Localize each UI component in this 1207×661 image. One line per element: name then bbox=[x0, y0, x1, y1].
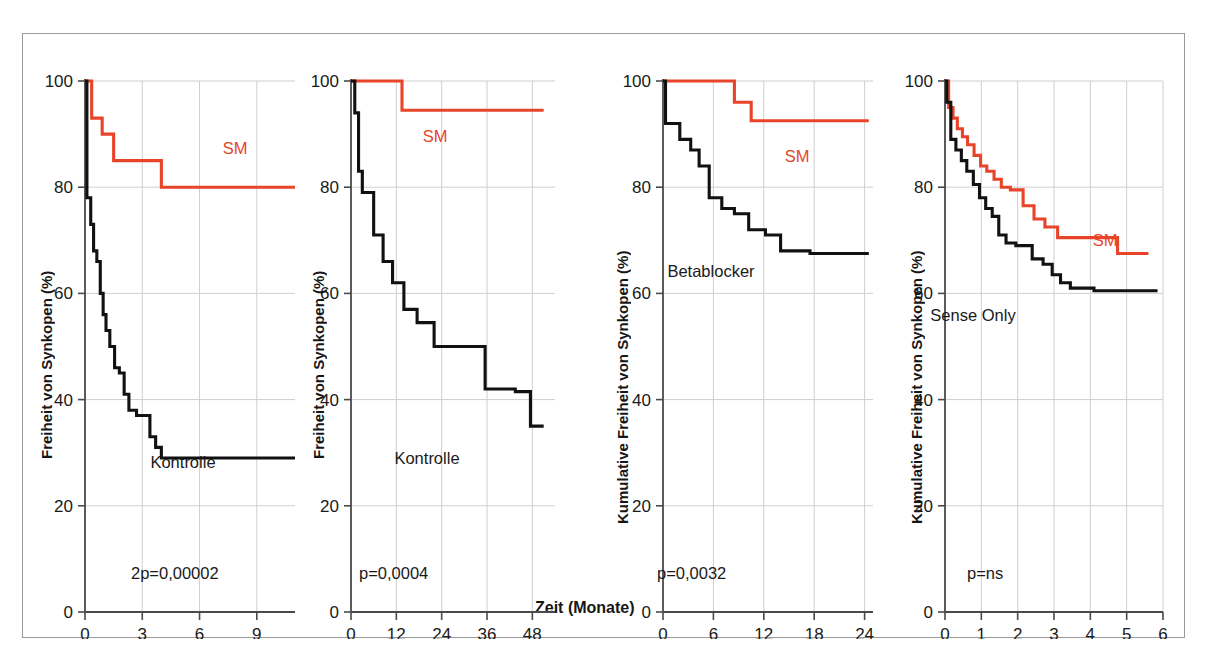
panel-2-y-axis-label: Freiheit von Synkopen (%) bbox=[311, 169, 326, 459]
svg-text:80: 80 bbox=[632, 178, 651, 197]
figure-frame: Zeit (Monate) Freiheit von Synkopen (%) … bbox=[22, 33, 1185, 638]
svg-text:100: 100 bbox=[45, 72, 73, 91]
svg-text:0: 0 bbox=[346, 625, 355, 639]
panel-4: Kumulative Freiheit von Synkopen (%) 020… bbox=[895, 34, 1186, 639]
svg-text:0: 0 bbox=[658, 625, 667, 639]
svg-text:Kontrolle: Kontrolle bbox=[394, 449, 459, 467]
svg-text:12: 12 bbox=[387, 625, 406, 639]
svg-text:20: 20 bbox=[320, 497, 339, 516]
svg-text:24: 24 bbox=[855, 625, 874, 639]
svg-text:3: 3 bbox=[1049, 625, 1058, 639]
svg-text:48: 48 bbox=[523, 625, 542, 639]
svg-text:40: 40 bbox=[632, 391, 651, 410]
svg-text:1: 1 bbox=[977, 625, 986, 639]
svg-text:p=ns: p=ns bbox=[967, 564, 1003, 582]
panel-1: Freiheit von Synkopen (%) 02040608010003… bbox=[23, 34, 313, 639]
svg-text:6: 6 bbox=[1158, 625, 1167, 639]
svg-text:6: 6 bbox=[195, 625, 204, 639]
svg-text:5: 5 bbox=[1122, 625, 1131, 639]
svg-text:24: 24 bbox=[432, 625, 451, 639]
panel-3: Kumulative Freiheit von Synkopen (%) 020… bbox=[601, 34, 901, 639]
svg-text:0: 0 bbox=[642, 603, 651, 622]
svg-text:0: 0 bbox=[924, 603, 933, 622]
svg-text:Kontrolle: Kontrolle bbox=[150, 453, 215, 471]
panel-1-plot: 0204060801000369SMKontrolle2p=0,00002 bbox=[23, 34, 313, 639]
svg-text:SM: SM bbox=[785, 147, 810, 165]
svg-text:3: 3 bbox=[138, 625, 147, 639]
svg-text:4: 4 bbox=[1086, 625, 1095, 639]
svg-text:40: 40 bbox=[54, 391, 73, 410]
svg-text:SM: SM bbox=[423, 127, 448, 145]
svg-text:0: 0 bbox=[64, 603, 73, 622]
svg-text:100: 100 bbox=[311, 72, 339, 91]
svg-text:60: 60 bbox=[632, 284, 651, 303]
svg-text:Sense Only: Sense Only bbox=[930, 306, 1016, 324]
svg-text:SM: SM bbox=[1093, 231, 1118, 249]
svg-text:2: 2 bbox=[1013, 625, 1022, 639]
svg-text:80: 80 bbox=[54, 178, 73, 197]
svg-text:0: 0 bbox=[940, 625, 949, 639]
svg-text:p=0,0004: p=0,0004 bbox=[359, 564, 428, 582]
svg-text:9: 9 bbox=[252, 625, 261, 639]
panel-3-plot: 02040608010006121824SMBetablockerp=0,003… bbox=[601, 34, 901, 639]
svg-text:100: 100 bbox=[623, 72, 651, 91]
svg-text:SM: SM bbox=[223, 139, 248, 157]
svg-text:18: 18 bbox=[805, 625, 824, 639]
panel-2: Freiheit von Synkopen (%) 02040608010001… bbox=[295, 34, 595, 639]
svg-text:100: 100 bbox=[905, 72, 933, 91]
panel-2-plot: 020406080100012243648SMKontrollep=0,0004 bbox=[295, 34, 595, 639]
panel-1-y-axis-label: Freiheit von Synkopen (%) bbox=[39, 169, 54, 459]
svg-text:p=0,0032: p=0,0032 bbox=[657, 564, 726, 582]
svg-text:12: 12 bbox=[754, 625, 773, 639]
svg-text:2p=0,00002: 2p=0,00002 bbox=[131, 564, 219, 582]
svg-text:36: 36 bbox=[478, 625, 497, 639]
panel-4-y-axis-label: Kumulative Freiheit von Synkopen (%) bbox=[909, 124, 924, 524]
svg-text:0: 0 bbox=[80, 625, 89, 639]
svg-text:20: 20 bbox=[54, 497, 73, 516]
svg-text:6: 6 bbox=[709, 625, 718, 639]
svg-text:Betablocker: Betablocker bbox=[667, 262, 755, 280]
svg-text:20: 20 bbox=[632, 497, 651, 516]
panel-3-y-axis-label: Kumulative Freiheit von Synkopen (%) bbox=[615, 124, 630, 524]
panel-4-plot: 0204060801000123456SMSense Onlyp=ns bbox=[895, 34, 1186, 639]
svg-text:0: 0 bbox=[330, 603, 339, 622]
svg-text:60: 60 bbox=[54, 284, 73, 303]
